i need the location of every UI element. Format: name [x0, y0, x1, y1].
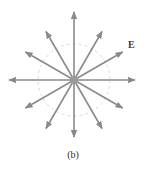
electric-field-label: E — [128, 40, 135, 50]
figure-caption: (b) — [0, 150, 146, 160]
radial-field-diagram — [0, 0, 146, 146]
figure-container: E (b) — [0, 0, 146, 174]
field-ray-group — [9, 12, 135, 137]
point-charge-center — [70, 76, 78, 84]
